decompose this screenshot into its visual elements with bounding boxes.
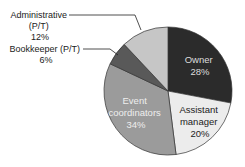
label-admin: Administrative (P/T) 12% [10, 10, 69, 42]
leader-line-bookkeeper [83, 49, 118, 55]
label-bookkeeper: Bookkeeper (P/T) 6% [9, 44, 82, 65]
pie-slices [104, 27, 232, 155]
leader-line-admin [69, 15, 141, 30]
pie-chart: Owner 28% Assistant manager 20% Event co… [0, 0, 245, 167]
